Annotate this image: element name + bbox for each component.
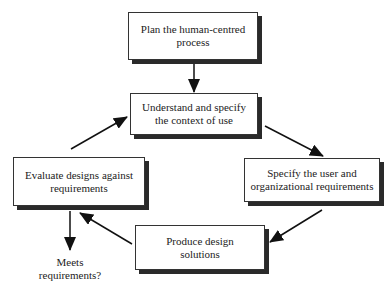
arrow-produce-to-evaluate	[80, 213, 132, 244]
arrow-specify-to-produce	[270, 210, 322, 242]
node-evaluate-line-1: Evaluate designs against	[25, 169, 133, 182]
node-evaluate: Evaluate designs against requirements	[13, 157, 145, 206]
node-evaluate-line-2: requirements	[50, 182, 107, 195]
outcome-line-1: Meets	[25, 256, 115, 269]
node-specify-line-1: Specify the user and	[267, 167, 357, 180]
arrow-understand-to-specify	[265, 126, 323, 156]
node-produce: Produce design solutions	[135, 225, 265, 270]
node-plan: Plan the human-centred process	[128, 12, 258, 60]
node-plan-line-1: Plan the human-centred	[141, 23, 245, 36]
node-understand: Understand and specify the context of us…	[130, 93, 258, 135]
node-produce-line-2: solutions	[180, 248, 220, 261]
node-plan-line-2: process	[177, 36, 210, 49]
outcome-meets-requirements: Meets requirements?	[25, 256, 115, 282]
node-produce-line-1: Produce design	[166, 235, 234, 248]
node-specify: Specify the user and organizational requ…	[244, 158, 380, 202]
arrow-evaluate-to-understand	[71, 117, 127, 149]
node-understand-line-1: Understand and specify	[142, 101, 246, 114]
outcome-line-2: requirements?	[25, 269, 115, 282]
node-specify-line-2: organizational requirements	[251, 180, 374, 193]
node-understand-line-2: the context of use	[155, 114, 233, 127]
